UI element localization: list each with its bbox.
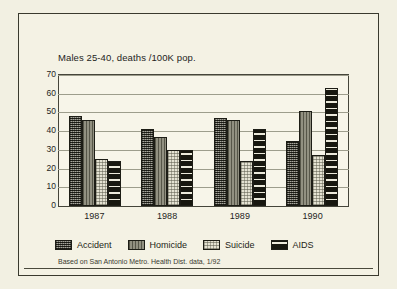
- legend-label-suicide: Suicide: [225, 240, 255, 250]
- x-tick-1989: 1989: [204, 211, 277, 221]
- bar-aids-1987: [108, 161, 121, 206]
- bar-group-1989: [204, 75, 276, 206]
- y-axis-tick-labels: 706050403020100: [34, 68, 56, 213]
- y-tick-70: 70: [47, 70, 56, 78]
- legend-swatch-aids: [271, 240, 288, 250]
- bar-aids-1989: [253, 129, 266, 206]
- bars-layer: [59, 75, 348, 206]
- x-axis-tick-labels: 1987198819891990: [58, 211, 349, 221]
- chart-title: Males 25-40, deaths /100K pop.: [58, 52, 196, 63]
- y-tick-0: 0: [51, 201, 56, 209]
- bar-group-1987: [59, 75, 131, 206]
- y-tick-30: 30: [47, 145, 56, 153]
- y-tick-40: 40: [47, 126, 56, 134]
- x-tick-1988: 1988: [131, 211, 204, 221]
- bar-suicide-1989: [240, 161, 253, 206]
- chart-page: Males 25-40, deaths /100K pop. 706050403…: [0, 0, 397, 289]
- y-tick-60: 60: [47, 89, 56, 97]
- chart-legend: AccidentHomicideSuicideAIDS: [55, 240, 355, 250]
- bar-aids-1988: [180, 150, 193, 206]
- footnote-divider: [24, 268, 373, 269]
- chart-footnote: Based on San Antonio Metro. Health Dist.…: [58, 258, 220, 265]
- legend-label-accident: Accident: [77, 240, 112, 250]
- bar-aids-1990: [325, 88, 338, 206]
- legend-item-accident: Accident: [55, 240, 112, 250]
- legend-label-homicide: Homicide: [150, 240, 188, 250]
- bar-homicide-1990: [299, 111, 312, 206]
- legend-swatch-accident: [55, 240, 72, 250]
- y-tick-10: 10: [47, 182, 56, 190]
- legend-swatch-suicide: [203, 240, 220, 250]
- legend-item-homicide: Homicide: [128, 240, 188, 250]
- bar-homicide-1989: [227, 120, 240, 206]
- bar-homicide-1987: [82, 120, 95, 206]
- bar-group-1990: [276, 75, 348, 206]
- x-tick-1987: 1987: [58, 211, 131, 221]
- bar-suicide-1990: [312, 155, 325, 206]
- bar-accident-1990: [286, 141, 299, 207]
- bar-homicide-1988: [154, 137, 167, 206]
- bar-accident-1989: [214, 118, 227, 206]
- legend-item-suicide: Suicide: [203, 240, 255, 250]
- legend-swatch-homicide: [128, 240, 145, 250]
- bar-suicide-1987: [95, 159, 108, 206]
- legend-label-aids: AIDS: [293, 240, 314, 250]
- y-tick-20: 20: [47, 164, 56, 172]
- plot-area: [58, 74, 349, 207]
- bar-suicide-1988: [167, 150, 180, 206]
- bar-group-1988: [131, 75, 203, 206]
- legend-item-aids: AIDS: [271, 240, 314, 250]
- x-tick-1990: 1990: [276, 211, 349, 221]
- bar-accident-1987: [69, 116, 82, 206]
- bar-accident-1988: [141, 129, 154, 206]
- y-tick-50: 50: [47, 107, 56, 115]
